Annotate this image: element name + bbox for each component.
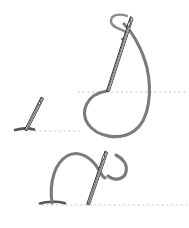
thread-loop-top <box>85 24 150 137</box>
sewing-needle-top <box>107 17 133 92</box>
thread-hook-bottom <box>108 155 126 179</box>
step-top-group <box>78 15 187 137</box>
diagram-canvas <box>0 0 189 228</box>
needle-highlight-middle <box>26 98 44 131</box>
sewing-needle-middle <box>25 97 44 131</box>
stitch-diagram-figure <box>0 0 189 228</box>
step-middle-group <box>15 97 80 131</box>
step-bottom-group <box>40 151 187 205</box>
